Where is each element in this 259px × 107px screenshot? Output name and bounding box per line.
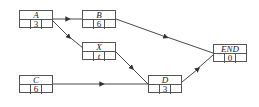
edge-d-end: [182, 69, 198, 82]
edge-x-d: [116, 52, 132, 68]
node-end: END 0: [213, 44, 247, 62]
node-x: X t: [82, 42, 116, 60]
node-b: B 6: [82, 10, 116, 28]
node-a: A 3: [19, 10, 53, 28]
edge-b-end: [116, 19, 166, 37]
node-end-duration: 0: [225, 54, 236, 63]
node-c-duration: 6: [31, 85, 42, 94]
node-a-duration: 3: [31, 20, 42, 29]
node-b-duration: 6: [94, 20, 105, 29]
node-c: C 6: [19, 75, 53, 93]
node-d-duration: 3: [160, 85, 171, 94]
node-x-duration: t: [94, 52, 105, 61]
edge-a-x: [53, 21, 69, 37]
node-d: D 3: [148, 75, 182, 93]
